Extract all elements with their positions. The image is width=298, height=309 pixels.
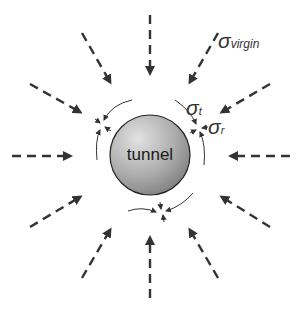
virgin-arrow-bottom-right: [190, 230, 218, 278]
virgin-arrow-left-upper: [30, 84, 80, 112]
virgin-arrow-bottom-left: [82, 230, 110, 278]
virgin-arrow-left-lower: [30, 197, 80, 227]
sigma-r-label: σr: [208, 116, 224, 138]
virgin-arrow-top-left: [82, 33, 110, 82]
sigma-t-label: σt: [186, 97, 202, 119]
sigma-virgin-label: σvirgin: [218, 30, 259, 52]
virgin-arrow-right-upper: [222, 84, 270, 112]
tunnel-stress-diagram: tunnel σvirgin σt σr: [0, 0, 298, 309]
virgin-arrow-top-right: [190, 33, 218, 82]
virgin-arrow-right-lower: [222, 197, 270, 227]
tunnel-label: tunnel: [110, 145, 190, 165]
